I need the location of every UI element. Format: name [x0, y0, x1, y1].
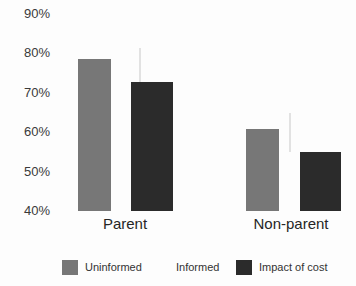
legend-item-impact-of-cost: Impact of cost: [236, 259, 327, 275]
y-axis-tick-40: 40%: [4, 204, 50, 217]
bar-parent-impact-of-cost: [131, 82, 173, 211]
x-axis-label-non-parent: Non-parent: [228, 215, 354, 232]
y-axis-tick-70: 70%: [4, 86, 50, 99]
legend-label-informed: Informed: [176, 261, 219, 273]
x-axis-label-parent: Parent: [60, 215, 190, 232]
chart-legend: Uninformed Informed Impact of cost: [0, 252, 356, 286]
bar-nonparent-uninformed: [246, 129, 279, 211]
y-axis-tick-80: 80%: [4, 46, 50, 59]
y-axis-tick-90: 90%: [4, 7, 50, 20]
error-bar-parent-informed: [139, 48, 141, 84]
error-bar-nonparent-informed: [289, 113, 291, 152]
bar-parent-uninformed: [78, 59, 111, 211]
legend-swatch-informed: [153, 260, 169, 275]
legend-label-uninformed: Uninformed: [85, 261, 142, 273]
y-axis-tick-60: 60%: [4, 125, 50, 138]
legend-item-informed: Informed: [153, 259, 219, 275]
bar-chart: 90% 80% 70% 60% 50% 40% Parent Non-paren…: [0, 0, 356, 286]
legend-swatch-uninformed: [62, 260, 78, 275]
bar-nonparent-impact-of-cost: [300, 152, 341, 211]
y-axis-tick-50: 50%: [4, 165, 50, 178]
plot-area: 90% 80% 70% 60% 50% 40% Parent Non-paren…: [0, 0, 356, 215]
legend-label-impact-of-cost: Impact of cost: [259, 261, 327, 273]
legend-item-uninformed: Uninformed: [62, 259, 142, 275]
legend-swatch-impact-of-cost: [236, 260, 252, 275]
